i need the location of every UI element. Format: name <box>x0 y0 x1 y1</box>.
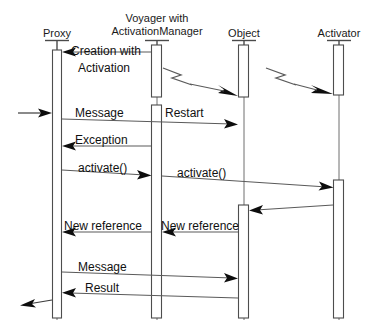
message-label-creation-line2: Activation <box>78 61 130 75</box>
activation-activator-2 <box>334 180 344 318</box>
message-activation-jagged-activator <box>266 68 333 94</box>
message-label-activate-left: activate() <box>78 161 127 175</box>
message-label-message-2: Message <box>78 260 127 274</box>
message-label-result: Result <box>85 281 120 295</box>
message-label-creation-line1: Creation with <box>71 44 141 58</box>
message-external-in <box>18 109 52 118</box>
message-label-activate-right: activate() <box>177 166 226 180</box>
activation-object-2 <box>239 205 249 318</box>
activation-activator-1 <box>334 45 344 95</box>
activation-voyager-1 <box>152 45 162 97</box>
lifeline-title-object: Object <box>228 27 260 39</box>
message-activator-to-object <box>249 205 333 215</box>
message-label-exception: Exception <box>75 133 128 147</box>
message-label-new-reference-left: New reference <box>64 219 142 233</box>
sequence-diagram-canvas: Proxy Voyager with ActivationManager Obj… <box>0 0 371 333</box>
message-label-restart: Restart <box>165 106 204 120</box>
message-label-message-1: Message <box>75 106 124 120</box>
lifeline-head-proxy <box>45 41 69 52</box>
activation-voyager-2 <box>152 105 162 318</box>
lifeline-title-voyager-line2: ActivationManager <box>111 25 202 37</box>
activation-object-1 <box>239 45 249 97</box>
message-external-out <box>20 299 52 308</box>
lifeline-title-activator: Activator <box>318 27 361 39</box>
sequence-diagram-svg: Proxy Voyager with ActivationManager Obj… <box>0 0 371 333</box>
message-activation-jagged-object <box>163 68 238 96</box>
lifeline-title-voyager-line1: Voyager with <box>126 12 189 24</box>
message-message-1 <box>62 119 238 129</box>
lifeline-title-proxy: Proxy <box>43 27 72 39</box>
activation-proxy-main <box>53 50 62 318</box>
message-label-new-reference-right: New reference <box>161 219 239 233</box>
